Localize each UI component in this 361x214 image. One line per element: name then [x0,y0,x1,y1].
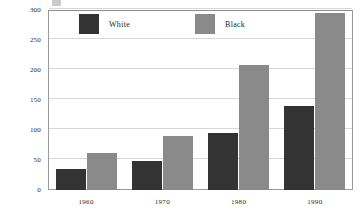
y-axis-tick-label: 0 [37,186,41,194]
bar-chart: 050100150200250300 1960197019801990 Whit… [0,0,361,214]
legend-entry-white: White [79,14,130,34]
y-axis-tick-label: 200 [30,66,41,74]
legend-label-white: White [109,20,130,29]
bar-white-1970 [132,161,162,190]
x-axis-tick-label-1990: 1990 [307,198,322,206]
legend-swatch-white-icon [79,14,99,34]
x-axis-tick-label-1960: 1960 [79,198,94,206]
y-axis-tick-label: 150 [30,96,41,104]
y-axis-tick-label: 50 [34,156,41,164]
x-axis-tick-labels: 1960197019801990 [48,192,353,214]
y-axis-tick-labels: 050100150200250300 [0,0,48,214]
legend-entry-black: Black [195,14,245,34]
scan-artifact [52,0,61,6]
gridline [49,8,352,9]
bar-white-1960 [56,169,86,190]
bar-white-1980 [208,133,238,190]
legend-swatch-black-icon [195,14,215,34]
bar-black-1960 [87,153,117,190]
y-axis-tick-label: 100 [30,126,41,134]
x-axis-tick-label-1980: 1980 [231,198,246,206]
chart-legend: White Black [48,10,353,38]
y-axis-tick-label: 300 [30,6,41,14]
x-axis-tick-label-1970: 1970 [155,198,170,206]
bar-black-1980 [239,65,269,190]
bar-white-1990 [284,106,314,190]
legend-label-black: Black [225,20,245,29]
y-axis-tick-label: 250 [30,36,41,44]
bar-black-1990 [315,13,345,190]
bar-black-1970 [163,136,193,190]
